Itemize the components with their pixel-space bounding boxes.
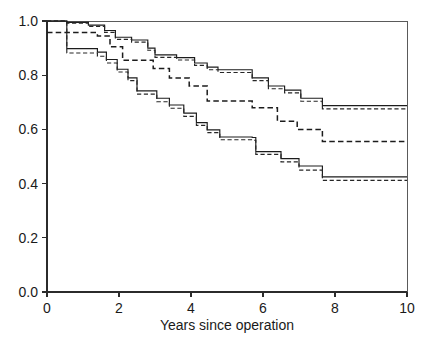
survival-curves-group [47,21,407,180]
chart-axes [47,21,407,292]
y-tick-label: 0.0 [19,284,39,300]
y-tick-label: 0.4 [19,176,39,192]
survival-curve-group-1-confidence-band [47,21,407,109]
y-tick-label: 0.2 [19,230,39,246]
x-tick-label: 6 [259,300,267,316]
x-tick-label: 4 [187,300,195,316]
x-tick-label: 0 [43,300,51,316]
y-tick-label: 0.6 [19,121,39,137]
survival-chart-figure: 0.00.20.40.60.81.0 0246810 Years since o… [0,0,431,350]
y-tick-label: 1.0 [19,13,39,29]
survival-curve-group-2-estimate [47,32,407,141]
survival-curve-group-3-estimate [47,21,407,177]
y-axis-ticks: 0.00.20.40.60.81.0 [19,13,47,300]
kaplan-meier-survival-plot: 0.00.20.40.60.81.0 0246810 Years since o… [0,0,431,350]
survival-curve-group-1-estimate [47,21,407,106]
x-tick-label: 2 [115,300,123,316]
y-tick-label: 0.8 [19,67,39,83]
x-axis-title: Years since operation [160,317,294,333]
x-axis-ticks: 0246810 [43,292,415,316]
x-tick-label: 8 [331,300,339,316]
plot-frame [47,21,407,292]
figure-caption-fragment [8,343,423,350]
x-tick-label: 10 [399,300,415,316]
